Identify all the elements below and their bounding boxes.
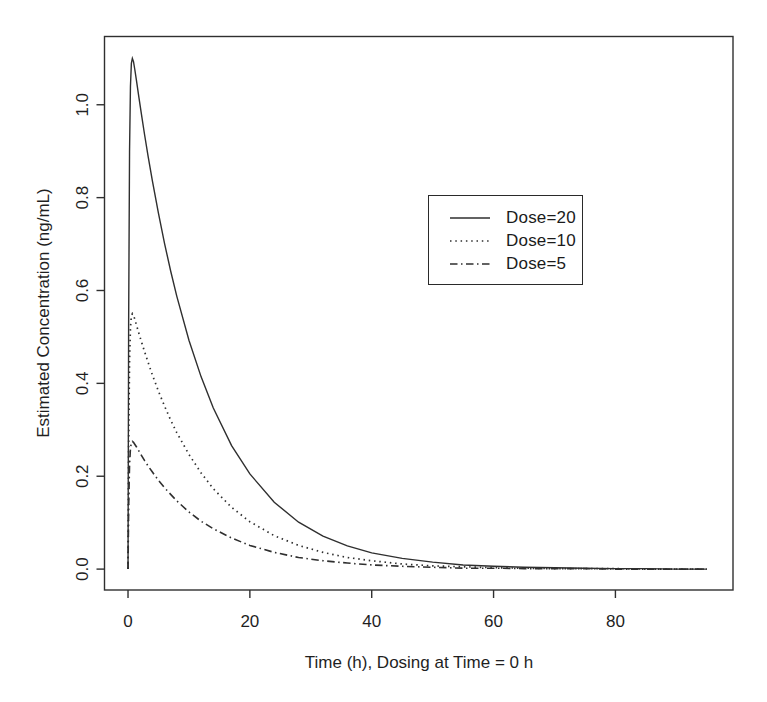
legend-item-dose-10: Dose=10: [448, 229, 582, 252]
legend-label: Dose=5: [506, 254, 566, 274]
legend: Dose=20 Dose=10 Dose=5: [428, 195, 583, 285]
y-tick-label: 0.4: [73, 372, 92, 396]
plot-area: 0204060800.00.20.40.60.81.0: [0, 0, 767, 702]
y-tick-label: 1.0: [73, 93, 92, 117]
x-tick-label: 20: [240, 612, 259, 631]
dotted-line-icon: [448, 236, 492, 246]
solid-line-icon: [448, 213, 492, 223]
x-tick-label: 0: [123, 612, 132, 631]
plot-box: [105, 37, 734, 591]
x-axis-title: Time (h), Dosing at Time = 0 h: [305, 653, 533, 673]
pk-concentration-figure: 0204060800.00.20.40.60.81.0 Estimated Co…: [0, 0, 767, 702]
legend-label: Dose=20: [506, 208, 576, 228]
legend-label: Dose=10: [506, 231, 576, 251]
x-tick-label: 80: [606, 612, 625, 631]
y-tick-label: 0.6: [73, 279, 92, 303]
series-line-dose-10: [128, 314, 707, 569]
series-line-dose-5: [128, 441, 707, 569]
dashdot-line-icon: [448, 259, 492, 269]
y-axis-title: Estimated Concentration (ng/mL): [34, 188, 54, 437]
series-line-dose-20: [128, 58, 707, 569]
x-tick-label: 60: [484, 612, 503, 631]
y-tick-label: 0.8: [73, 186, 92, 210]
x-tick-label: 40: [362, 612, 381, 631]
legend-item-dose-20: Dose=20: [448, 206, 582, 229]
legend-item-dose-5: Dose=5: [448, 252, 582, 275]
y-tick-label: 0.0: [73, 557, 92, 581]
y-tick-label: 0.2: [73, 464, 92, 488]
